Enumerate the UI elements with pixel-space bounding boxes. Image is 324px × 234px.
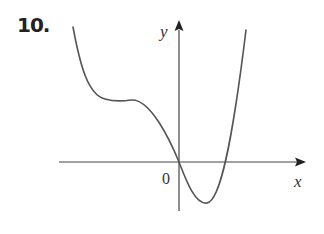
function-curve [73, 27, 246, 203]
x-axis [59, 158, 306, 167]
origin-label: 0 [162, 170, 170, 187]
y-axis-arrow-icon [175, 20, 184, 31]
x-axis-label: x [293, 172, 302, 191]
y-axis [175, 20, 184, 211]
y-axis-label: y [158, 22, 168, 41]
function-graph: y x 0 [0, 0, 324, 234]
